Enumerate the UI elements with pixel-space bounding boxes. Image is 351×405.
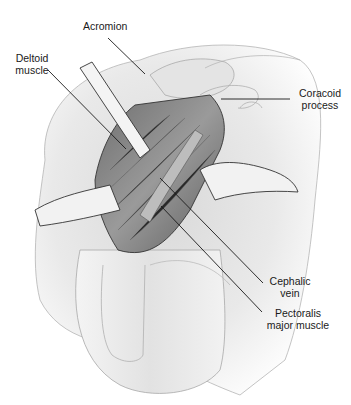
label-deltoid-muscle: Deltoid muscle — [8, 52, 56, 76]
upper-arm — [76, 250, 230, 393]
label-pectoralis-major-muscle: Pectoralis major muscle — [262, 307, 334, 331]
label-cephalic-vein: Cephalic vein — [264, 275, 316, 299]
label-coracoid-process: Coracoid process — [292, 87, 348, 111]
label-acromion: Acromion — [83, 20, 127, 32]
